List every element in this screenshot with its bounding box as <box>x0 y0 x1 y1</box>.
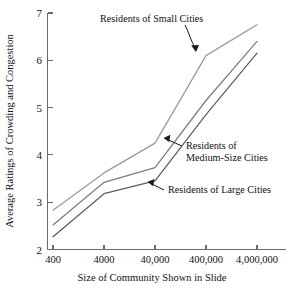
y-tick-label-2: 2 <box>37 244 43 256</box>
x-tick-label-400000: 400,000 <box>189 254 223 265</box>
y-tick-label-5: 5 <box>37 102 43 114</box>
x-tick-label-400: 400 <box>45 254 61 265</box>
line-chart-canvas: 7 6 5 4 3 2 400 4000 40,000 400,000 4,00… <box>0 0 299 295</box>
chart-figure: 7 6 5 4 3 2 400 4000 40,000 400,000 4,00… <box>0 0 299 295</box>
y-tick-label-6: 6 <box>37 54 43 66</box>
annotation-small-cities: Residents of Small Cities <box>100 13 203 24</box>
y-tick-marks <box>48 13 54 250</box>
annotation-medium-cities-line2: Medium-Size Cities <box>186 152 268 163</box>
annotation-large-cities: Residents of Large Cities <box>168 184 271 195</box>
annotation-medium-cities-line1: Residents of <box>186 140 237 151</box>
y-tick-label-7: 7 <box>37 7 43 19</box>
x-tick-label-40000: 40,000 <box>141 254 170 265</box>
x-tick-marks <box>53 245 257 250</box>
x-tick-label-4000: 4000 <box>94 254 115 265</box>
y-tick-label-3: 3 <box>37 196 43 208</box>
y-tick-label-4: 4 <box>37 149 43 161</box>
series-line-small-cities <box>53 25 257 210</box>
leader-small-cities <box>185 25 199 52</box>
x-tick-label-4000000: 4,000,000 <box>236 254 278 265</box>
x-axis-title: Size of Community Shown in Slide <box>77 272 226 283</box>
series-line-medium-cities <box>53 41 257 225</box>
y-axis-title: Average Ratings of Crowding and Congesti… <box>4 33 15 227</box>
